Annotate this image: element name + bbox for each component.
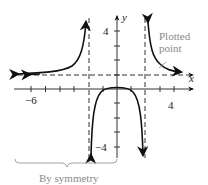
left-branch-extra-arrow (30, 74, 40, 75)
x-axis-label: x (188, 72, 194, 84)
plotted-point-label-line1: Plotted (159, 30, 191, 42)
symmetry-brace (15, 159, 117, 167)
y-axis-label: y (121, 11, 127, 23)
y-tick-label-neg4: −4 (95, 141, 107, 153)
symmetry-label: By symmetry (39, 172, 99, 184)
plotted-point-label-line2: point (159, 42, 182, 54)
left-branch (18, 22, 86, 74)
y-tick-label-4: 4 (103, 25, 109, 37)
x-tick-label-neg6: −6 (25, 94, 37, 106)
x-tick-label-4: 4 (168, 99, 174, 111)
rational-function-graph: −6 4 4 −4 y x Plotted point By symmetry (0, 0, 208, 185)
